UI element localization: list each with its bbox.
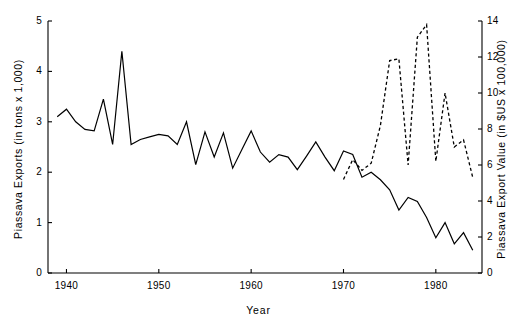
right-tick-label-6: 6 [487,159,517,170]
left-tick-label-5: 5 [16,15,42,26]
series-piassava-export-value-line [343,25,472,180]
left-tick-label-3: 3 [16,116,42,127]
left-tick-label-2: 2 [16,166,42,177]
right-tick-label-10: 10 [487,87,517,98]
axis-lines [48,21,482,273]
left-tick-label-1: 1 [16,217,42,228]
right-tick-label-4: 4 [487,195,517,206]
x-tick-label-1960: 1960 [226,280,276,291]
x-axis-ticks [66,269,435,273]
x-tick-label-1950: 1950 [134,280,184,291]
left-tick-label-4: 4 [16,65,42,76]
right-tick-label-2: 2 [487,231,517,242]
right-tick-label-0: 0 [487,267,517,278]
right-tick-label-12: 12 [487,51,517,62]
x-tick-label-1970: 1970 [318,280,368,291]
series-piassava-exports-line [57,51,473,250]
line-chart-canvas [0,0,517,327]
right-tick-label-14: 14 [487,15,517,26]
x-axis-title: Year [0,304,517,316]
x-tick-label-1980: 1980 [411,280,461,291]
left-axis-ticks [48,21,52,273]
right-axis-ticks [478,21,482,273]
chart-figure: Piassava Exports (in tons x 1,000) Piass… [0,0,517,327]
right-tick-label-8: 8 [487,123,517,134]
left-tick-label-0: 0 [16,267,42,278]
x-tick-label-1940: 1940 [41,280,91,291]
